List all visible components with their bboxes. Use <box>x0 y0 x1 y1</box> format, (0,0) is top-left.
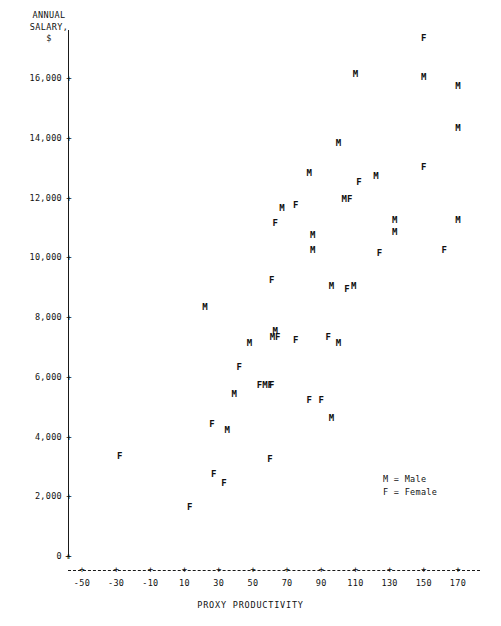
y-tick-label: 4,000 <box>4 433 62 442</box>
y-tick-mark: + <box>64 492 74 501</box>
y-tick-mark: + <box>64 194 74 203</box>
y-axis-title: ANNUAL SALARY, $ <box>18 10 80 45</box>
y-tick-mark: + <box>64 253 74 262</box>
y-tick-mark: + <box>64 74 74 83</box>
data-point-f: F <box>313 396 329 405</box>
y-tick-mark: + <box>64 373 74 382</box>
data-point-f: F <box>182 503 198 512</box>
x-tick-mark: + <box>385 565 395 574</box>
data-point-f: F <box>371 249 387 258</box>
data-point-m: M <box>450 124 466 133</box>
data-point-f: F <box>264 276 280 285</box>
data-point-m: M <box>450 216 466 225</box>
data-point-overlap: MF <box>332 195 362 204</box>
y-tick-label: 6,000 <box>4 373 62 382</box>
y-tick-label: 14,000 <box>4 134 62 143</box>
data-point-f: F <box>267 219 283 228</box>
x-tick-mark: + <box>316 565 326 574</box>
y-tick-label: 2,000 <box>4 492 62 501</box>
x-tick-mark: + <box>180 565 190 574</box>
data-point-f: F <box>216 479 232 488</box>
data-point-f: F <box>351 178 367 187</box>
data-point-f: F <box>206 470 222 479</box>
data-point-overlap: FMF <box>250 381 280 390</box>
data-point-m: M <box>387 216 403 225</box>
axis-origin-mark: + <box>63 552 73 561</box>
y-tick-label: 10,000 <box>4 253 62 262</box>
y-axis-line <box>68 30 69 557</box>
legend-entry-m: M = Male <box>383 473 437 486</box>
data-point-m: M <box>330 139 346 148</box>
y-tick-label: 8,000 <box>4 313 62 322</box>
data-point-m: M <box>416 73 432 82</box>
x-tick-mark: + <box>77 565 87 574</box>
data-point-m: M <box>197 303 213 312</box>
y-tick-mark: + <box>64 313 74 322</box>
data-point-m: M <box>241 339 257 348</box>
data-point-m: M <box>368 172 384 181</box>
x-tick-mark: + <box>350 565 360 574</box>
x-tick-mark: + <box>111 565 121 574</box>
x-tick-mark: + <box>282 565 292 574</box>
y-tick-label: 16,000 <box>4 74 62 83</box>
data-point-m: M <box>305 231 321 240</box>
data-point-m: M <box>301 169 317 178</box>
data-point-m: M <box>219 426 235 435</box>
data-point-f: F <box>416 163 432 172</box>
x-tick-mark: + <box>214 565 224 574</box>
scatter-plot: ANNUAL SALARY, $ +0+2,000+4,000+6,000+8,… <box>0 0 501 626</box>
data-point-f: F <box>231 363 247 372</box>
legend-entry-f: F = Female <box>383 486 437 499</box>
data-point-f: F <box>339 285 355 294</box>
y-tick-label: 0 <box>4 552 62 561</box>
data-point-f: F <box>436 246 452 255</box>
x-tick-mark: + <box>248 565 258 574</box>
y-tick-label: 12,000 <box>4 194 62 203</box>
data-point-m: M <box>347 70 363 79</box>
y-tick-mark: + <box>64 433 74 442</box>
data-point-f: F <box>262 455 278 464</box>
data-point-m: M <box>450 82 466 91</box>
x-tick-mark: + <box>145 565 155 574</box>
data-point-f: F <box>112 452 128 461</box>
data-point-m: M <box>387 228 403 237</box>
data-point-f: F <box>204 420 220 429</box>
chart-legend: M = MaleF = Female <box>383 473 437 499</box>
data-point-m: M <box>324 282 340 291</box>
data-point-overlap: MF <box>260 333 290 342</box>
data-point-m: M <box>226 390 242 399</box>
x-tick-mark: + <box>453 565 463 574</box>
x-tick-label: 170 <box>438 578 478 588</box>
x-axis-title: PROXY PRODUCTIVITY <box>0 600 501 610</box>
data-point-m: M <box>324 414 340 423</box>
x-tick-mark: + <box>419 565 429 574</box>
data-point-f: F <box>288 201 304 210</box>
data-point-m: M <box>305 246 321 255</box>
data-point-f: F <box>416 34 432 43</box>
y-tick-mark: + <box>64 134 74 143</box>
data-point-f: F <box>320 333 336 342</box>
